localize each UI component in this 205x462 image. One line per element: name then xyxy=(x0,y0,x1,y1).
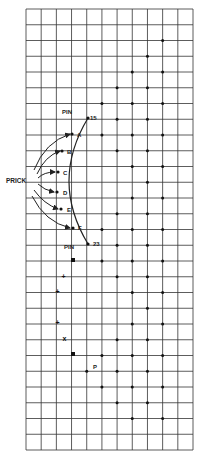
grid-dot xyxy=(161,291,164,294)
grid-dot xyxy=(100,354,103,357)
arc-point xyxy=(70,132,73,135)
grid-dot xyxy=(131,291,134,294)
grid-dot xyxy=(146,118,149,121)
grid-dot xyxy=(131,102,134,105)
grid-dot xyxy=(161,228,164,231)
prick-transfer-diagram: +++x PRICK PIN 15 PIN 23 A B C D E F P xyxy=(0,0,205,462)
grid-dot xyxy=(100,386,103,389)
arc-point xyxy=(55,190,58,193)
grid-dot xyxy=(116,401,119,404)
grid-dot xyxy=(85,370,88,373)
point-label-e: E xyxy=(67,207,71,213)
prick-label: PRICK xyxy=(6,177,27,184)
curve-mark: + xyxy=(56,288,60,295)
grid-dot xyxy=(161,386,164,389)
point-label-f: F xyxy=(78,225,82,231)
grid-dot xyxy=(161,102,164,105)
grid-dot xyxy=(131,71,134,74)
grid-dot xyxy=(116,149,119,152)
grid-dot xyxy=(131,417,134,420)
arc-point-marks xyxy=(55,116,89,245)
grid-dot xyxy=(116,212,119,215)
grid-dot xyxy=(146,181,149,184)
lower-curve-marks: +++x xyxy=(56,258,76,356)
grid-dot xyxy=(161,197,164,200)
grid-dot xyxy=(100,134,103,137)
grid-dot xyxy=(131,165,134,168)
grid-dot xyxy=(116,275,119,278)
grid-dot xyxy=(146,212,149,215)
grid-dot xyxy=(131,260,134,263)
grid-dot xyxy=(146,275,149,278)
grid-dot xyxy=(161,39,164,42)
grid-dot xyxy=(161,323,164,326)
point-label-b: B xyxy=(67,149,72,155)
grid-dot xyxy=(146,401,149,404)
arc-point xyxy=(59,207,62,210)
grid-dot xyxy=(131,134,134,137)
point-label-c: C xyxy=(63,170,68,176)
grid-dot xyxy=(146,86,149,89)
grid-dot xyxy=(131,354,134,357)
pin-top-number: 15 xyxy=(90,115,97,121)
grid-dot xyxy=(161,71,164,74)
grid-dot xyxy=(131,197,134,200)
point-label-p: P xyxy=(93,364,97,370)
grid-dot xyxy=(131,323,134,326)
grid-dot xyxy=(161,165,164,168)
grid-dot xyxy=(131,386,134,389)
arc-point xyxy=(86,242,89,245)
graph-paper-grid xyxy=(26,9,193,450)
grid-dot xyxy=(161,354,164,357)
grid-dot xyxy=(100,102,103,105)
grid-dot xyxy=(116,86,119,89)
grid-dot xyxy=(146,370,149,373)
grid-dot xyxy=(100,228,103,231)
grid-dot xyxy=(116,370,119,373)
point-label-a: A xyxy=(77,132,82,138)
arc-point xyxy=(56,170,59,173)
grid-dot xyxy=(146,338,149,341)
grid-dot xyxy=(116,244,119,247)
pin-top-label: PIN xyxy=(62,109,72,115)
grid-dot xyxy=(131,228,134,231)
curve-mark: + xyxy=(56,319,60,326)
grid-dot xyxy=(146,149,149,152)
curve-mark xyxy=(71,352,75,356)
grid-dot xyxy=(146,307,149,310)
grid-dot xyxy=(100,260,103,263)
arc-point xyxy=(60,149,63,152)
curve-mark: x xyxy=(63,335,67,342)
pin-bottom-label: PIN xyxy=(64,244,74,250)
grid-dot xyxy=(161,417,164,420)
arc-point xyxy=(71,226,74,229)
curve-mark: + xyxy=(62,273,66,280)
grid-dot xyxy=(146,55,149,58)
grid-dot xyxy=(116,118,119,121)
point-label-d: D xyxy=(63,190,68,196)
grid-dot xyxy=(161,260,164,263)
curve-mark xyxy=(71,258,75,262)
grid-dot xyxy=(116,338,119,341)
grid-dot xyxy=(146,244,149,247)
pin-bottom-number: 23 xyxy=(93,241,100,247)
grid-dot xyxy=(161,134,164,137)
